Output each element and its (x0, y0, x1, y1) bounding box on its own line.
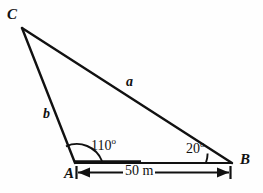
angle-value-20: 20 (186, 141, 200, 156)
dimension-label: 50 m (123, 164, 155, 178)
degree-symbol-icon: o (111, 136, 116, 146)
degree-symbol-icon: o (200, 139, 205, 149)
side-label-a: a (126, 75, 133, 89)
vertex-label-b: B (240, 152, 250, 167)
side-label-b: b (43, 107, 50, 121)
vertex-label-a: A (64, 166, 74, 181)
segment-side-b (22, 28, 75, 163)
angle-label-20: 20o (186, 140, 205, 156)
angle-arc-20 (206, 154, 208, 163)
vertex-label-c: C (7, 7, 17, 22)
angle-value-110: 110 (91, 138, 111, 153)
dimension-arrowhead-left (78, 168, 90, 178)
angle-label-110: 110o (91, 137, 116, 153)
dimension-arrowhead-right (217, 168, 229, 178)
triangle-figure: C A B a b 110o 20o 50 m (0, 0, 263, 193)
